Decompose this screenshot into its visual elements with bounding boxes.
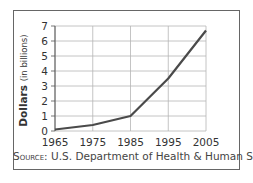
x-tick-label: 1975	[79, 136, 106, 148]
source-note: Source: U.S. Department of Health & Huma…	[13, 150, 240, 162]
y-tick-label: 3	[41, 80, 48, 92]
y-tick-label: 7	[41, 20, 48, 32]
y-title-unit: (in billions)	[19, 34, 29, 81]
y-tick-label: 5	[41, 50, 48, 62]
y-tick-label: 1	[41, 110, 48, 122]
svg-text:Dollars (in billions): Dollars (in billions)	[17, 34, 29, 126]
x-tick-label: 1965	[42, 136, 69, 148]
source-text: U.S. Department of Health & Human Servic…	[51, 150, 253, 162]
x-axis-ticks: 19651975198519952005	[42, 136, 220, 148]
x-tick-label: 1995	[155, 136, 182, 148]
y-tick-label: 4	[41, 65, 48, 77]
y-tick-label: 2	[41, 95, 48, 107]
y-axis-ticks: 01234567	[41, 20, 55, 137]
y-tick-label: 0	[41, 125, 48, 137]
x-tick-label: 1985	[117, 136, 144, 148]
x-tick-label: 2005	[193, 136, 220, 148]
y-title-bold: Dollars	[17, 81, 29, 126]
y-tick-label: 6	[41, 35, 48, 47]
source-label: Source:	[13, 150, 48, 162]
y-axis-title: Dollars (in billions)	[17, 34, 29, 126]
